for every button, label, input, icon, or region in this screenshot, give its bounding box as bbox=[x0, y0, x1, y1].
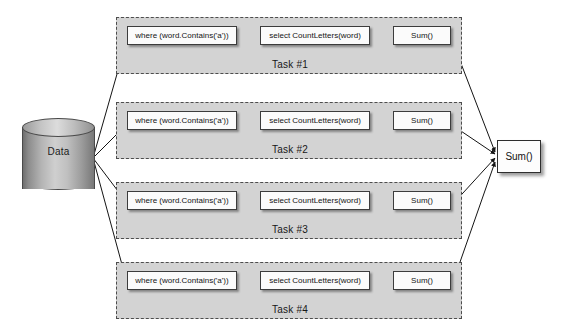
data-source-label: Data bbox=[22, 146, 95, 157]
task-band-label: Task #3 bbox=[117, 224, 463, 235]
sum-operation-box[interactable]: Sum() bbox=[393, 191, 451, 210]
task-band-1[interactable]: where (word.Contains('a')) select CountL… bbox=[116, 17, 462, 74]
select-operation-box[interactable]: select CountLetters(word) bbox=[260, 191, 370, 210]
task-band-2[interactable]: where (word.Contains('a')) select CountL… bbox=[116, 102, 462, 159]
task-band-3[interactable]: where (word.Contains('a')) select CountL… bbox=[116, 182, 462, 239]
sum-operation-box[interactable]: Sum() bbox=[393, 111, 451, 130]
where-operation-box[interactable]: where (word.Contains('a')) bbox=[127, 26, 237, 45]
task-band-label: Task #2 bbox=[117, 144, 463, 155]
where-operation-box[interactable]: where (word.Contains('a')) bbox=[127, 111, 237, 130]
where-operation-box[interactable]: where (word.Contains('a')) bbox=[127, 271, 237, 290]
aggregate-sum-box[interactable]: Sum() bbox=[497, 140, 541, 173]
task-band-label: Task #4 bbox=[117, 304, 463, 315]
diagram-canvas: Data where (word.Contains('a')) select C… bbox=[0, 0, 571, 332]
select-operation-box[interactable]: select CountLetters(word) bbox=[260, 111, 370, 130]
sum-operation-box[interactable]: Sum() bbox=[393, 26, 451, 45]
data-source-cylinder[interactable]: Data bbox=[22, 118, 95, 196]
where-operation-box[interactable]: where (word.Contains('a')) bbox=[127, 191, 237, 210]
task-band-4[interactable]: where (word.Contains('a')) select CountL… bbox=[116, 262, 462, 319]
select-operation-box[interactable]: select CountLetters(word) bbox=[260, 271, 370, 290]
task-band-label: Task #1 bbox=[117, 59, 463, 70]
cylinder-top-ellipse bbox=[22, 118, 95, 137]
select-operation-box[interactable]: select CountLetters(word) bbox=[260, 26, 370, 45]
sum-operation-box[interactable]: Sum() bbox=[393, 271, 451, 290]
